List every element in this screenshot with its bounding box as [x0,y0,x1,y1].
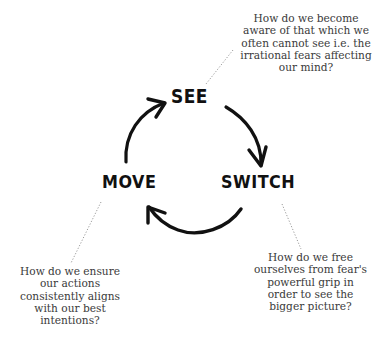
question-move-line: intentions? [14,314,126,326]
see-switch-move-cycle-diagram: SEE SWITCH MOVE How do we become aware o… [0,0,380,344]
question-see-line: aware of that which we [232,24,380,36]
stage-label-move: MOVE [102,171,156,193]
question-see-line: often cannot see i.e. the [232,37,380,49]
question-move-line: consistently aligns [14,290,126,302]
stage-label-see: SEE [171,85,208,108]
arrow-see-to-switch-icon [226,107,266,166]
question-switch-line: bigger picture? [248,300,373,312]
stage-label-switch: SWITCH [221,171,295,193]
question-see-line: our mind? [232,61,380,73]
question-see-line: irrational fears affecting [232,49,380,61]
question-see: How do we become aware of that which we … [232,12,380,73]
question-switch-line: order to see the [248,288,373,300]
question-switch: How do we free ourselves from fear's pow… [248,251,373,312]
question-move-line: How do we ensure [14,265,126,277]
question-see-line: How do we become [232,12,380,24]
question-switch-line: powerful grip in [248,276,373,288]
arrow-move-to-see-icon [126,99,165,162]
question-move-line: with our best [14,302,126,314]
leader-line-see [206,50,233,84]
question-move: How do we ensure our actions consistentl… [14,265,126,326]
arrow-switch-to-move-icon [148,207,241,233]
question-move-line: our actions [14,277,126,289]
leader-line-switch [282,204,301,249]
question-switch-line: How do we free [248,251,373,263]
question-switch-line: ourselves from fear's [248,263,373,275]
leader-line-move [71,202,101,263]
